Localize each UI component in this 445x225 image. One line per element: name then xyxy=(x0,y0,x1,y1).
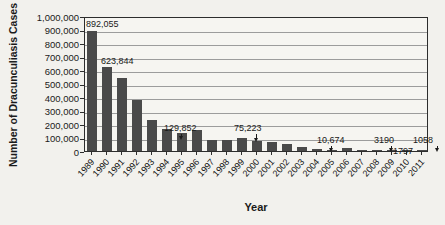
annotation-arrowhead-icon xyxy=(254,138,258,142)
bar xyxy=(267,142,277,151)
annotation-value: 892,055 xyxy=(86,19,119,29)
x-tick-mark xyxy=(91,152,92,155)
annotation-value: 10,674 xyxy=(317,135,345,145)
bar xyxy=(237,138,247,151)
x-tick-mark xyxy=(256,152,257,155)
annotation-arrowhead-icon xyxy=(179,136,183,140)
annotation-value: 1058 xyxy=(413,135,433,145)
annotation-arrowhead-icon xyxy=(329,148,333,152)
annotation-arrowhead-icon xyxy=(389,148,393,152)
bar xyxy=(147,120,157,151)
x-tick-mark xyxy=(151,152,152,155)
y-tick-label: 700,000 xyxy=(17,52,79,63)
bar xyxy=(132,100,142,151)
bar xyxy=(207,140,217,151)
x-tick-mark xyxy=(376,152,377,155)
x-axis-title: Year xyxy=(84,201,428,213)
y-tick-label: 300,000 xyxy=(17,106,79,117)
x-tick-mark xyxy=(196,152,197,155)
y-tick-label: 600,000 xyxy=(17,66,79,77)
bar xyxy=(372,150,382,151)
x-tick-mark xyxy=(421,152,422,155)
annotation-value: 3190 xyxy=(374,135,394,145)
x-tick-mark xyxy=(211,152,212,155)
x-tick-mark xyxy=(271,152,272,155)
x-tick-mark xyxy=(391,152,392,155)
x-tick-mark xyxy=(241,152,242,155)
x-tick-mark xyxy=(361,152,362,155)
y-tick-label: 0 xyxy=(17,147,79,158)
grid-line xyxy=(85,32,427,33)
annotation-arrowhead-icon xyxy=(435,148,439,152)
y-tick-label: 500,000 xyxy=(17,79,79,90)
dracunculiasis-cases-chart: Number of Dracunculiasis Cases 0100,0002… xyxy=(0,0,445,225)
bar xyxy=(357,150,367,151)
bar xyxy=(222,140,232,151)
bar xyxy=(87,31,97,151)
grid-line xyxy=(85,86,427,87)
y-tick-label: 200,000 xyxy=(17,120,79,131)
x-tick-mark xyxy=(316,152,317,155)
x-tick-mark xyxy=(136,152,137,155)
x-tick-mark xyxy=(331,152,332,155)
grid-line xyxy=(85,72,427,73)
annotation-value: 623,844 xyxy=(101,56,134,66)
y-tick-mark xyxy=(80,152,84,153)
y-tick-label: 100,000 xyxy=(17,133,79,144)
x-tick-mark xyxy=(106,152,107,155)
y-tick-label: 400,000 xyxy=(17,93,79,104)
bar xyxy=(417,150,427,151)
x-tick-mark xyxy=(286,152,287,155)
x-tick-mark xyxy=(226,152,227,155)
bar xyxy=(297,147,307,151)
bar xyxy=(117,78,127,151)
bar xyxy=(192,130,202,151)
x-tick-mark xyxy=(346,152,347,155)
bar xyxy=(102,67,112,151)
x-tick-mark xyxy=(121,152,122,155)
y-tick-label: 1,000,000 xyxy=(17,12,79,23)
annotation-value: 75,223 xyxy=(234,123,262,133)
annotation-value: 129,852 xyxy=(164,123,197,133)
y-tick-label: 800,000 xyxy=(17,39,79,50)
x-tick-mark xyxy=(301,152,302,155)
bar xyxy=(252,141,262,151)
annotation-value: 1797 xyxy=(393,146,413,156)
grid-line xyxy=(85,59,427,60)
x-tick-mark xyxy=(181,152,182,155)
x-tick-mark xyxy=(166,152,167,155)
grid-line xyxy=(85,45,427,46)
bar xyxy=(282,144,292,151)
y-tick-label: 900,000 xyxy=(17,25,79,36)
bar xyxy=(342,148,352,151)
bar xyxy=(312,149,322,151)
